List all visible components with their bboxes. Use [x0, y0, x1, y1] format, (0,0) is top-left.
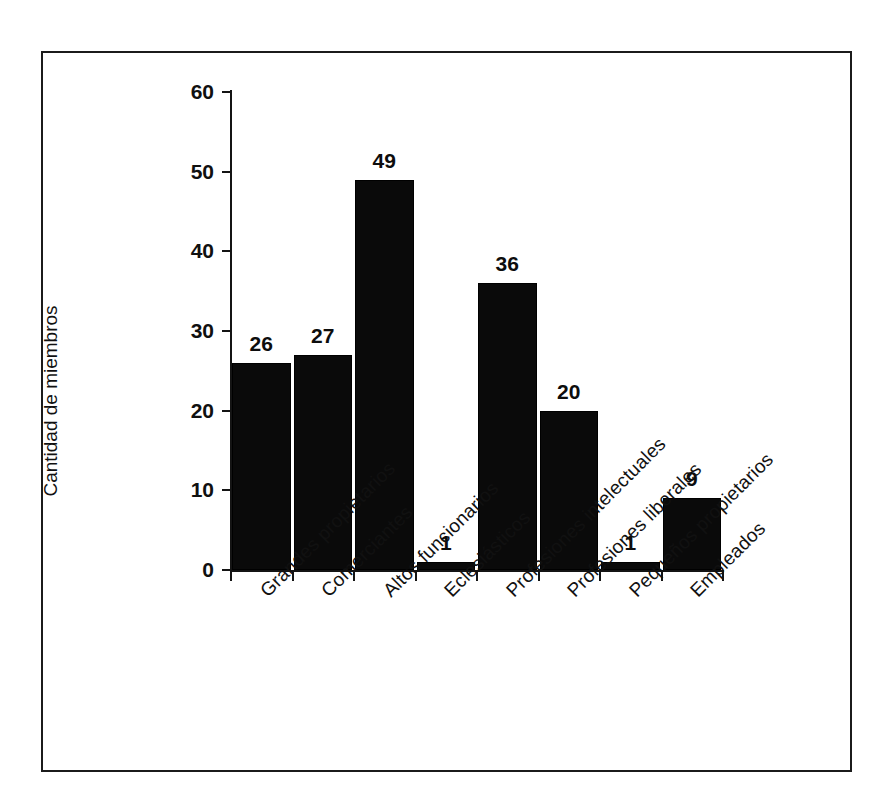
figure-border: [41, 51, 852, 772]
